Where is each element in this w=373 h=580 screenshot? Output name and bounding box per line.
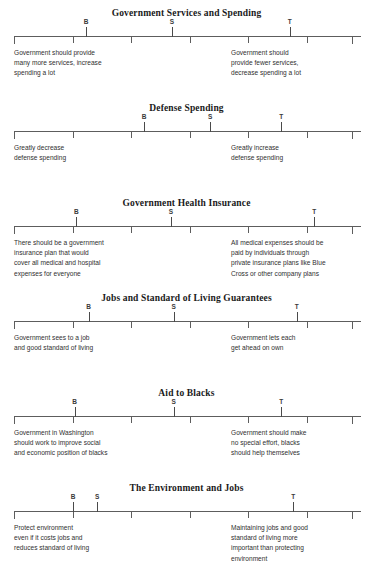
axis-tick <box>14 131 15 139</box>
axis-tick <box>131 131 132 138</box>
marker-label-b: B <box>142 113 147 121</box>
left-anchor-label: There should be a governmentinsurance pl… <box>14 238 164 279</box>
axis-tick <box>352 226 353 234</box>
anchor-line: should work to improve social <box>14 438 164 448</box>
axis-tick <box>73 321 74 328</box>
axis-tick <box>73 36 74 43</box>
left-anchor-label: Government sees to a joband good standar… <box>14 333 164 353</box>
axis-tick <box>73 511 74 518</box>
axis-tick <box>248 131 249 138</box>
axis-tick <box>352 36 353 44</box>
right-anchor-label: All medical expenses should bepaid by in… <box>231 238 361 279</box>
marker-tick-t <box>281 407 282 417</box>
marker-tick-b <box>75 407 76 417</box>
axis-tick <box>248 226 249 233</box>
axis-tick <box>190 416 191 423</box>
issue-scales-page: Government Services and SpendingBSTGover… <box>0 0 373 580</box>
issue-title: Aid to Blacks <box>0 388 373 399</box>
axis-tick <box>131 321 132 328</box>
anchor-line: even if it costs jobs and <box>14 533 164 543</box>
anchor-line: insurance plan that would <box>14 248 164 258</box>
axis-tick <box>73 226 74 233</box>
axis-tick <box>73 131 74 138</box>
marker-tick-t <box>314 217 315 227</box>
marker-label-b: B <box>72 398 77 406</box>
anchor-line: no special effort, blacks <box>231 438 361 448</box>
anchor-line: should help themselves <box>231 448 361 458</box>
axis-tick <box>352 416 353 424</box>
issue-scale-block: Jobs and Standard of Living GuaranteesBS… <box>0 293 373 379</box>
axis-tick <box>14 226 15 234</box>
axis-tick <box>307 226 308 233</box>
axis-tick <box>131 226 132 233</box>
marker-tick-b <box>76 217 77 227</box>
issue-scale-block: Aid to BlacksBSTGovernment in Washington… <box>0 388 373 474</box>
issue-scale-axis: BST <box>14 212 361 236</box>
issue-scale-axis: BST <box>14 497 361 521</box>
marker-tick-b <box>73 502 74 512</box>
right-anchor-label: Greatly increasedefense spending <box>231 143 361 163</box>
marker-label-s: S <box>95 493 99 501</box>
axis-tick <box>248 36 249 43</box>
anchor-line: many more services, increase <box>14 58 164 68</box>
axis-tick <box>248 416 249 423</box>
anchor-line: Government should <box>231 48 361 58</box>
axis-tick <box>307 36 308 43</box>
marker-tick-t <box>281 122 282 132</box>
anchor-line: get ahead on own <box>231 343 361 353</box>
marker-label-s: S <box>170 18 174 26</box>
issue-title: Jobs and Standard of Living Guarantees <box>0 293 373 304</box>
anchor-labels: Government should providemany more servi… <box>14 48 361 94</box>
marker-tick-t <box>293 502 294 512</box>
axis-tick <box>307 131 308 138</box>
marker-tick-t <box>290 27 291 37</box>
anchor-line: Protect environment <box>14 523 164 533</box>
marker-label-s: S <box>208 113 212 121</box>
axis-tick <box>307 511 308 518</box>
axis-tick <box>190 131 191 138</box>
marker-label-t: T <box>291 493 295 501</box>
anchor-line: defense spending <box>14 153 164 163</box>
axis-tick <box>248 321 249 328</box>
left-anchor-label: Protect environmenteven if it costs jobs… <box>14 523 164 554</box>
anchor-line: provide fewer services, <box>231 58 361 68</box>
marker-label-t: T <box>279 113 283 121</box>
axis-tick <box>190 321 191 328</box>
axis-tick <box>131 36 132 43</box>
axis-tick <box>14 321 15 329</box>
issue-scale-block: Government Services and SpendingBSTGover… <box>0 8 373 94</box>
issue-title: Government Health Insurance <box>0 198 373 209</box>
axis-tick <box>190 36 191 43</box>
anchor-labels: Greatly decreasedefense spendingGreatly … <box>14 143 361 189</box>
axis-tick <box>248 511 249 518</box>
anchor-labels: There should be a governmentinsurance pl… <box>14 238 361 284</box>
marker-tick-t <box>297 312 298 322</box>
anchor-line: cover all medical and hospital <box>14 258 164 268</box>
right-anchor-label: Maintaining jobs and goodstandard of liv… <box>231 523 361 564</box>
anchor-line: Greatly decrease <box>14 143 164 153</box>
anchor-line: reduces standard of living <box>14 543 164 553</box>
marker-tick-s <box>171 217 172 227</box>
anchor-line: Government should make <box>231 428 361 438</box>
axis-tick <box>131 511 132 518</box>
anchor-line: private insurance plans like Blue <box>231 258 361 268</box>
axis-tick <box>14 416 15 424</box>
anchor-line: Government sees to a job <box>14 333 164 343</box>
axis-line <box>14 416 361 417</box>
anchor-labels: Government in Washingtonshould work to i… <box>14 428 361 474</box>
marker-tick-s <box>97 502 98 512</box>
axis-tick <box>352 131 353 139</box>
axis-tick <box>14 36 15 44</box>
issue-scale-block: The Environment and JobsBSTProtect envir… <box>0 483 373 569</box>
anchor-line: Cross or other company plans <box>231 269 361 279</box>
right-anchor-label: Government shouldprovide fewer services,… <box>231 48 361 79</box>
marker-label-b: B <box>71 493 76 501</box>
anchor-line: Maintaining jobs and good <box>231 523 361 533</box>
anchor-line: There should be a government <box>14 238 164 248</box>
anchor-line: Government lets each <box>231 333 361 343</box>
axis-line <box>14 321 361 322</box>
anchor-line: Government should provide <box>14 48 164 58</box>
axis-tick <box>190 511 191 518</box>
axis-line <box>14 226 361 227</box>
axis-tick <box>352 321 353 329</box>
